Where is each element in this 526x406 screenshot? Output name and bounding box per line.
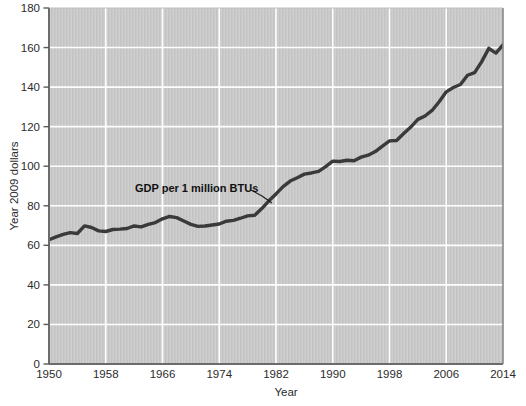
x-tick-label: 1950 xyxy=(36,368,62,380)
x-tick-label: 1966 xyxy=(150,368,176,380)
x-tick-label: 2006 xyxy=(433,368,459,380)
y-tick-label: 140 xyxy=(21,81,40,93)
y-tick-label: 60 xyxy=(27,239,40,251)
x-tick-label: 1982 xyxy=(263,368,289,380)
gdp-per-btu-line-chart: 180 160 140 120 100 80 60 40 20 0 1950 1… xyxy=(0,0,526,406)
y-tick-label: 40 xyxy=(27,279,40,291)
y-tick-label: 20 xyxy=(27,318,40,330)
annotation-label: GDP per 1 million BTUs xyxy=(135,182,258,194)
x-tick-label: 1998 xyxy=(377,368,403,380)
y-tick-label: 180 xyxy=(21,2,40,14)
x-axis-title: Year xyxy=(274,386,297,398)
y-tick-label: 100 xyxy=(21,160,40,172)
y-axis-title: Year 2009 dollars xyxy=(8,141,20,230)
x-tick-label: 1958 xyxy=(93,368,119,380)
chart-figure: 180 160 140 120 100 80 60 40 20 0 1950 1… xyxy=(0,0,526,406)
x-axis-tick-labels: 1950 1958 1966 1974 1982 1990 1998 2006 … xyxy=(36,368,516,380)
y-tick-label: 160 xyxy=(21,42,40,54)
y-tick-label: 80 xyxy=(27,200,40,212)
x-tick-label: 1974 xyxy=(206,368,232,380)
x-tick-label: 1990 xyxy=(320,368,346,380)
x-tick-label: 2014 xyxy=(490,368,516,380)
y-tick-label: 120 xyxy=(21,121,40,133)
